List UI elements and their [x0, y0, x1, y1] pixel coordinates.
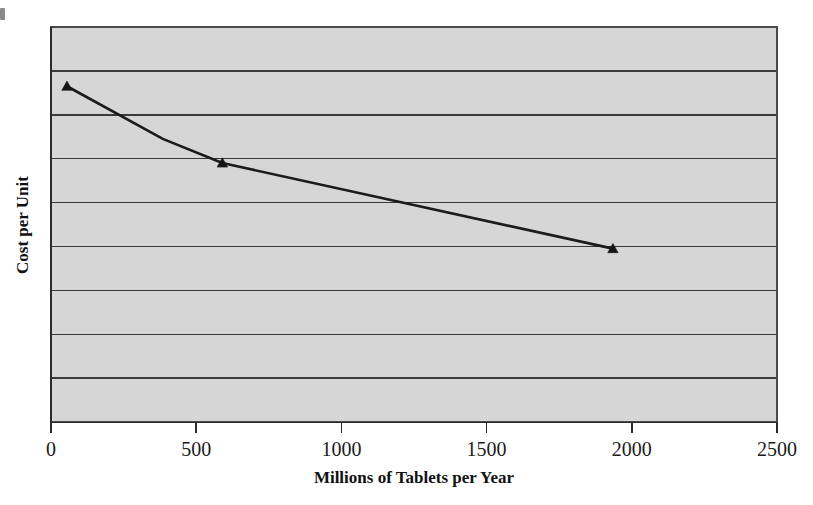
- x-tick-label: 500: [181, 438, 211, 460]
- x-tick-label: 1000: [321, 438, 361, 460]
- x-tick-label: 2500: [757, 438, 797, 460]
- x-axis-title: Millions of Tablets per Year: [314, 468, 515, 487]
- x-tick-label: 0: [46, 438, 56, 460]
- x-tick-group: 05001000150020002500: [46, 422, 797, 460]
- chart-figure: 05001000150020002500 Cost per Unit Milli…: [0, 0, 813, 505]
- plot-area-background: [51, 27, 777, 422]
- scan-artifact-mark: [0, 8, 5, 20]
- x-tick-label: 2000: [612, 438, 652, 460]
- x-tick-label: 1500: [467, 438, 507, 460]
- line-chart-canvas: 05001000150020002500 Cost per Unit Milli…: [0, 0, 813, 505]
- y-axis-title: Cost per Unit: [13, 176, 32, 274]
